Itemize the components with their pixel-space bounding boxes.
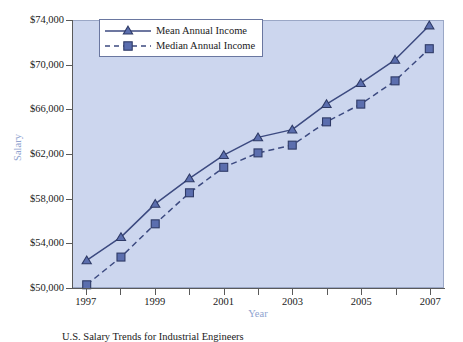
series-line-median	[87, 49, 430, 285]
legend-label-mean: Mean Annual Income	[152, 25, 247, 36]
y-axis-line	[72, 20, 73, 289]
data-point-marker	[185, 174, 194, 182]
x-axis-tick-label: 1997	[66, 297, 106, 308]
y-axis-tick-label: $58,000	[0, 194, 64, 205]
data-point-marker	[425, 45, 433, 53]
x-axis-tick-label: 2003	[272, 297, 312, 308]
y-axis-tick	[66, 154, 72, 155]
data-point-marker	[288, 141, 296, 149]
chart-legend: Mean Annual Income Median Annual Income	[99, 19, 263, 57]
data-point-marker	[357, 100, 365, 108]
y-axis-tick-label: $66,000	[0, 104, 64, 115]
x-axis-tick-label: 2005	[341, 297, 381, 308]
data-point-marker	[151, 220, 159, 228]
data-point-marker	[82, 256, 91, 264]
legend-swatch-median	[104, 39, 152, 53]
y-axis-tick	[66, 65, 72, 66]
x-axis-tick	[292, 289, 293, 295]
y-axis-tick	[66, 20, 72, 21]
x-axis-tick	[155, 289, 156, 295]
plot-svg	[73, 21, 443, 287]
x-axis-tick	[430, 289, 431, 295]
data-point-marker	[391, 77, 399, 85]
data-point-marker	[219, 151, 228, 159]
x-axis-tick	[258, 289, 259, 295]
y-axis-tick-label: $50,000	[0, 283, 64, 294]
data-point-marker	[220, 163, 228, 171]
legend-item-mean: Mean Annual Income	[104, 23, 255, 38]
legend-label-median: Median Annual Income	[152, 40, 255, 51]
chart-caption: U.S. Salary Trends for Industrial Engine…	[62, 331, 244, 342]
x-axis-tick	[224, 289, 225, 295]
x-axis-tick-label: 2001	[204, 297, 244, 308]
x-axis-tick	[361, 289, 362, 295]
y-axis-tick-label: $74,000	[0, 15, 64, 26]
data-point-marker	[323, 118, 331, 126]
y-axis-title: Salary	[12, 118, 23, 178]
x-axis-tick	[189, 289, 190, 295]
legend-swatch-mean	[104, 24, 152, 38]
y-axis-tick-label: $62,000	[0, 149, 64, 160]
x-axis-tick-label: 2007	[410, 297, 450, 308]
y-axis-tick	[66, 288, 72, 289]
data-point-marker	[425, 21, 434, 29]
data-point-marker	[254, 149, 262, 157]
data-point-marker	[117, 253, 125, 261]
data-point-marker	[356, 79, 365, 87]
legend-item-median: Median Annual Income	[104, 38, 255, 53]
y-axis-tick	[66, 109, 72, 110]
x-axis-tick-label: 1999	[135, 297, 175, 308]
y-axis-tick	[66, 243, 72, 244]
y-axis-tick	[66, 199, 72, 200]
plot-area	[72, 20, 444, 288]
y-axis-tick-label: $70,000	[0, 60, 64, 71]
data-point-marker	[322, 100, 331, 108]
x-axis-tick	[396, 289, 397, 295]
series-line-mean	[87, 25, 430, 260]
x-axis-tick	[327, 289, 328, 295]
x-axis-tick	[86, 289, 87, 295]
data-point-marker	[186, 189, 194, 197]
y-axis-tick-label: $54,000	[0, 238, 64, 249]
x-axis-tick	[120, 289, 121, 295]
x-axis-title: Year	[72, 308, 444, 319]
